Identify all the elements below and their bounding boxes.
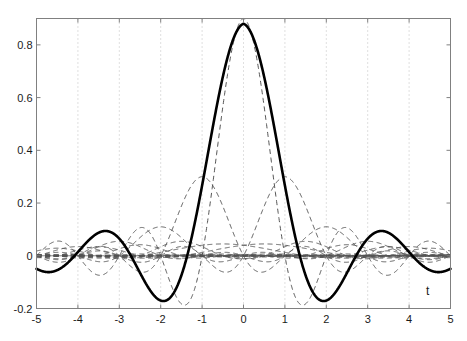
x-tick-label: -4	[73, 313, 83, 325]
x-tick-label: -1	[197, 313, 207, 325]
x-tick-label: -3	[114, 313, 124, 325]
y-tick-label: 0.6	[17, 92, 32, 104]
y-tick-label: 0	[26, 250, 32, 262]
y-tick-label: -0.2	[14, 303, 33, 315]
chart-plot	[0, 0, 467, 341]
figure-container: -5-4-3-2-1012345 -0.200.20.40.60.8 t	[0, 0, 467, 341]
x-tick-label: 3	[365, 313, 371, 325]
x-tick-label: -2	[156, 313, 166, 325]
x-tick-label: -5	[32, 313, 42, 325]
x-axis-title: t	[426, 284, 429, 298]
gridlines-group	[78, 19, 409, 309]
x-tick-label: 0	[240, 313, 246, 325]
y-tick-label: 0.8	[17, 39, 32, 51]
x-tick-label: 5	[447, 313, 453, 325]
x-tick-label: 2	[323, 313, 329, 325]
x-tick-label: 1	[282, 313, 288, 325]
x-tick-label: 4	[406, 313, 412, 325]
y-tick-label: 0.4	[17, 144, 32, 156]
y-tick-label: 0.2	[17, 197, 32, 209]
data-curves-group	[37, 19, 451, 306]
